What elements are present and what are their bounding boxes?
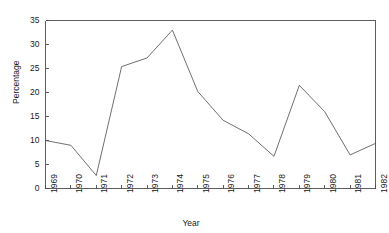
x-tick-label: 1981 [354,174,363,193]
data-series-group [46,30,376,175]
y-tick-label: 35 [18,16,40,25]
x-tick-label: 1972 [126,174,135,193]
y-axis-title: Percentage [12,61,21,104]
x-tick-label: 1980 [329,174,338,193]
x-tick-label: 1970 [75,174,84,193]
x-tick-label: 1976 [227,174,236,193]
y-tick-label: 0 [18,184,40,193]
y-tick-label: 15 [18,112,40,121]
x-tick-label: 1974 [176,174,185,193]
y-tick-label: 10 [18,136,40,145]
x-tick-label: 1982 [380,174,389,193]
y-axis-ticks [46,21,50,189]
x-axis-title: Year [0,219,382,228]
x-tick-label: 1978 [278,174,287,193]
x-tick-label: 1969 [50,174,59,193]
x-tick-label: 1971 [100,174,109,193]
y-tick-label: 5 [18,160,40,169]
x-tick-label: 1973 [151,174,160,193]
x-tick-label: 1977 [253,174,262,193]
data-line-percentage [46,30,376,175]
x-tick-label: 1979 [303,174,312,193]
x-tick-label: 1975 [202,174,211,193]
plot-frame [46,21,376,189]
y-tick-label: 30 [18,40,40,49]
